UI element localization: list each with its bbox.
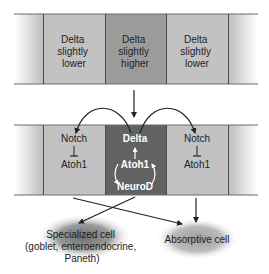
top-left-neighbor-cell [14, 14, 44, 84]
center-delta-label: Delta [123, 133, 148, 144]
top-epithelium-band: Delta slightly lower Delta slightly high… [14, 14, 258, 84]
top-cell-left-label: Delta slightly lower [57, 34, 90, 69]
top-right-neighbor-cell [228, 14, 258, 84]
top-cell-center-label: Delta slightly higher [118, 34, 151, 69]
center-neurod-label: NeuroD [117, 181, 153, 192]
absorptive-cell-label: Absorptive cell [164, 234, 229, 245]
top-cell-right-label: Delta slightly lower [180, 34, 213, 69]
left-atoh1-label: Atoh1 [61, 159, 88, 170]
bottom-left-neighbor-cell [14, 125, 44, 195]
left-notch-label: Notch [61, 133, 87, 144]
right-atoh1-label: Atoh1 [184, 159, 211, 170]
bottom-right-neighbor-cell [228, 125, 258, 195]
bottom-epithelium-band: Notch Atoh1 Delta Atoh1 NeuroD Notch Ato… [14, 125, 258, 195]
lateral-inhibition-diagram: Delta slightly lower Delta slightly high… [0, 0, 269, 274]
center-atoh1-label: Atoh1 [121, 159, 150, 170]
right-notch-label: Notch [184, 133, 210, 144]
